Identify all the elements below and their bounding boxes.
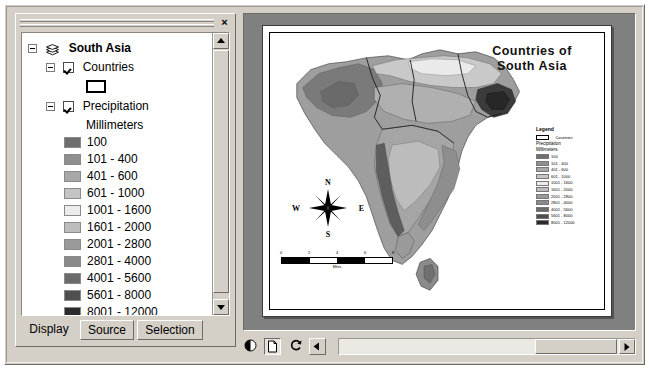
layout-view-button[interactable]: [264, 338, 281, 355]
collapse-icon[interactable]: [46, 102, 55, 111]
tab-source[interactable]: Source: [80, 320, 134, 340]
map-legend-countries-label: Countries: [555, 135, 572, 140]
tab-selection[interactable]: Selection: [137, 320, 203, 340]
legend-color-swatch[interactable]: [64, 154, 81, 165]
toc-vertical-scrollbar[interactable]: [212, 33, 229, 315]
legend-color-swatch[interactable]: [64, 256, 81, 267]
map-legend-class-label: 100: [551, 154, 558, 159]
toc-title-bar[interactable]: ×: [18, 16, 233, 31]
scale-bar-tick-label: 4: [336, 250, 338, 255]
legend-color-swatch[interactable]: [64, 273, 81, 284]
layer-visibility-checkbox[interactable]: [63, 62, 74, 73]
map-legend-class-label: 5601 - 8000: [551, 213, 572, 218]
map-legend-class-row: 5601 - 8000: [536, 212, 604, 218]
compass-east-label: E: [359, 204, 364, 213]
scale-bar-segment: [337, 258, 365, 263]
scale-bar-ticks: 02468: [281, 250, 393, 257]
toc-item-countries[interactable]: Countries: [28, 58, 212, 77]
compass-north-label: N: [325, 178, 331, 187]
legend-color-swatch: [536, 161, 549, 166]
scrollbar-thumb[interactable]: [535, 339, 617, 354]
application-client-area: × South Asia: [6, 6, 643, 363]
map-legend-class-label: 101 - 400: [551, 160, 568, 165]
legend-class-row[interactable]: 2001 - 2800: [28, 236, 212, 253]
legend-class-row[interactable]: 4001 - 5600: [28, 270, 212, 287]
close-icon[interactable]: ×: [217, 16, 232, 30]
layout-horizontal-scrollbar[interactable]: [338, 338, 636, 355]
collapse-icon[interactable]: [28, 44, 37, 53]
map-legend-class-row: 2001 - 2800: [536, 193, 604, 199]
legend-class-row[interactable]: 100: [28, 134, 212, 151]
legend-class-row[interactable]: 1601 - 2000: [28, 219, 212, 236]
legend-color-swatch[interactable]: [64, 239, 81, 250]
hollow-rectangle-swatch[interactable]: [86, 80, 106, 93]
toc-item-label: Precipitation: [83, 99, 149, 113]
layers-stack-icon: [45, 43, 60, 55]
legend-color-swatch: [536, 154, 549, 159]
map-title-line-2: South Asia: [467, 59, 597, 74]
legend-color-swatch[interactable]: [64, 222, 81, 233]
scroll-up-button[interactable]: [213, 33, 229, 49]
layer-visibility-checkbox[interactable]: [63, 101, 74, 112]
scale-bar-units-label: Miles: [281, 265, 393, 269]
data-view-button[interactable]: [243, 338, 260, 355]
scrollbar-thumb[interactable]: [213, 50, 229, 293]
toc-item-precipitation[interactable]: Precipitation: [28, 97, 212, 116]
legend-class-row[interactable]: 601 - 1000: [28, 185, 212, 202]
toc-item-south-asia[interactable]: South Asia: [28, 39, 212, 58]
map-legend-class-row: 1001 - 1600: [536, 179, 604, 185]
scale-bar-graphic: [281, 257, 393, 264]
scroll-right-button[interactable]: [619, 339, 635, 354]
map-legend-units-label: Millimeters: [536, 147, 604, 152]
legend-color-swatch[interactable]: [64, 205, 81, 216]
map-legend-class-label: 601 - 1000: [551, 174, 570, 179]
map-legend-class-row: 101 - 400: [536, 160, 604, 166]
legend-class-row[interactable]: 8001 - 12000: [28, 304, 212, 315]
countries-symbol-row: [28, 77, 212, 97]
legend-color-swatch: [536, 194, 549, 199]
legend-class-label: 601 - 1000: [87, 186, 144, 200]
left-arrow-icon: [310, 340, 323, 353]
legend-class-row[interactable]: 1001 - 1600: [28, 202, 212, 219]
pause-draw-button[interactable]: [309, 338, 326, 355]
legend-color-swatch: [536, 200, 549, 205]
toc-tree-container: South Asia Countries Precipitation: [21, 32, 230, 316]
half-circle-icon: [243, 338, 258, 353]
layout-page[interactable]: Countries of South Asia Legend Countries…: [262, 25, 612, 317]
toc-tree[interactable]: South Asia Countries Precipitation: [22, 33, 212, 315]
map-legend-class-label: 1601 - 2000: [551, 187, 572, 192]
map-legend-class-label: 1001 - 1600: [551, 180, 572, 185]
legend-color-swatch: [536, 220, 549, 225]
map-legend-class-row: 100: [536, 153, 604, 159]
triangle-up-icon: [217, 38, 225, 43]
layout-view-canvas[interactable]: Countries of South Asia Legend Countries…: [243, 13, 636, 331]
map-legend-class-label: 8001 - 12000: [551, 220, 575, 225]
legend-color-swatch[interactable]: [64, 188, 81, 199]
collapse-icon[interactable]: [46, 63, 55, 72]
legend-class-row[interactable]: 101 - 400: [28, 151, 212, 168]
legend-color-swatch[interactable]: [64, 171, 81, 182]
map-legend-element[interactable]: Legend Countries Precipitation Millimete…: [536, 126, 604, 226]
table-of-contents-panel: × South Asia: [15, 13, 236, 347]
scale-bar[interactable]: 02468 Miles: [281, 250, 393, 269]
legend-class-label: 1601 - 2000: [87, 220, 151, 234]
legend-class-label: 4001 - 5600: [87, 271, 151, 285]
map-legend-class-row: 601 - 1000: [536, 173, 604, 179]
map-title-line-1: Countries of: [467, 44, 597, 59]
legend-color-swatch[interactable]: [64, 307, 81, 315]
scroll-down-button[interactable]: [213, 299, 229, 315]
map-legend-class-row: 4001 - 5600: [536, 206, 604, 212]
toc-item-label: Countries: [83, 60, 134, 74]
triangle-down-icon: [217, 305, 225, 310]
north-arrow[interactable]: N S W E: [301, 181, 355, 235]
legend-color-swatch[interactable]: [64, 137, 81, 148]
refresh-button[interactable]: [289, 338, 306, 355]
tab-display[interactable]: Display: [21, 320, 77, 340]
legend-class-row[interactable]: 5601 - 8000: [28, 287, 212, 304]
legend-class-row[interactable]: 2801 - 4000: [28, 253, 212, 270]
legend-class-label: 401 - 600: [87, 169, 138, 183]
map-legend-precipitation-label: Precipitation: [536, 141, 604, 146]
application-window: × South Asia: [4, 4, 645, 365]
legend-color-swatch[interactable]: [64, 290, 81, 301]
legend-class-row[interactable]: 401 - 600: [28, 168, 212, 185]
